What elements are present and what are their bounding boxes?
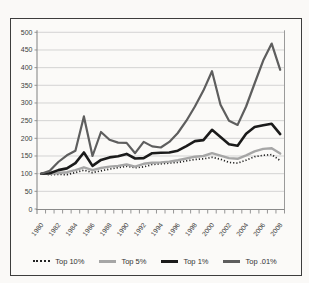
x-tick-label: 1982: [47, 221, 62, 237]
x-tick-label: 1992: [132, 221, 147, 237]
y-tick-label: 450: [21, 46, 33, 53]
y-tick-label: 0: [29, 206, 33, 213]
x-tick-label: 1996: [166, 221, 181, 237]
y-tick-label: 250: [21, 117, 33, 124]
y-tick-label: 300: [21, 99, 33, 106]
series-line-top-1-: [41, 124, 280, 174]
figure: 0501001502002503003504004505001980198219…: [0, 0, 309, 283]
dotted-line-swatch: [33, 260, 50, 262]
chart-legend: Top 10% Top 5% Top 1% Top .01%: [14, 252, 296, 270]
legend-item-top-1pct: Top 1%: [161, 257, 208, 266]
y-tick-label: 350: [21, 82, 33, 89]
legend-item-top-10pct: Top 10%: [33, 257, 84, 266]
y-tick-label: 200: [21, 135, 33, 142]
series-line-top-10-: [41, 155, 280, 175]
y-tick-label: 50: [25, 188, 33, 195]
x-tick-label: 1986: [81, 221, 96, 237]
black-line-swatch: [161, 260, 178, 263]
legend-label: Top .01%: [245, 257, 276, 266]
y-tick-label: 500: [21, 29, 33, 36]
x-tick-label: 1990: [115, 221, 130, 237]
x-tick-label: 2008: [269, 221, 284, 237]
x-tick-label: 1994: [149, 221, 164, 237]
x-tick-label: 2002: [218, 221, 233, 237]
gray-line-swatch: [99, 260, 116, 263]
x-tick-label: 1984: [64, 221, 79, 237]
y-tick-label: 150: [21, 152, 33, 159]
dark-gray-line-swatch: [223, 260, 240, 263]
y-tick-label: 400: [21, 64, 33, 71]
x-tick-label: 2006: [252, 221, 267, 237]
x-tick-label: 2000: [201, 221, 216, 237]
legend-label: Top 5%: [121, 257, 146, 266]
x-tick-label: 1988: [98, 221, 113, 237]
legend-label: Top 10%: [55, 257, 84, 266]
x-tick-label: 1980: [30, 221, 45, 237]
legend-item-top-01pct: Top .01%: [223, 257, 276, 266]
x-tick-label: 2004: [235, 221, 250, 237]
income-growth-line-chart: 0501001502002503003504004505001980198219…: [0, 0, 309, 283]
x-tick-label: 1998: [183, 221, 198, 237]
legend-label: Top 1%: [183, 257, 208, 266]
series-line-top-01-: [41, 44, 280, 174]
y-tick-label: 100: [21, 170, 33, 177]
legend-item-top-5pct: Top 5%: [99, 257, 146, 266]
